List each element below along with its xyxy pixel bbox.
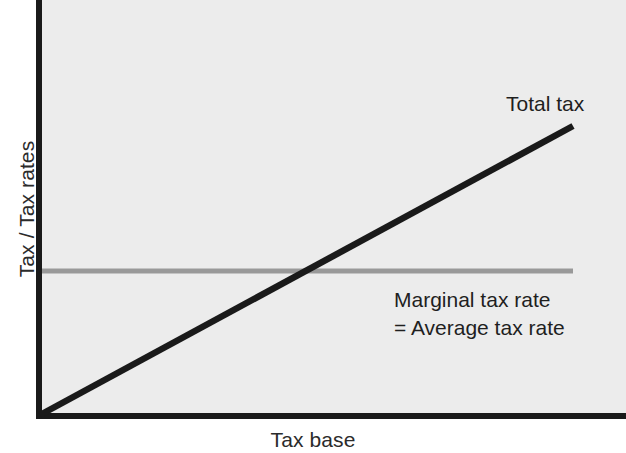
marginal-rate-label-line2: = Average tax rate xyxy=(394,314,565,342)
y-axis-label: Tax / Tax rates xyxy=(15,124,39,294)
x-axis-label: Tax base xyxy=(0,428,626,452)
tax-proportional-chart: Tax / Tax rates Tax base Total tax Margi… xyxy=(0,0,626,453)
total-tax-annotation: Total tax xyxy=(506,92,584,116)
marginal-rate-label-line1: Marginal tax rate xyxy=(394,286,565,314)
series-layer xyxy=(0,0,626,453)
marginal-average-rate-annotation: Marginal tax rate = Average tax rate xyxy=(394,286,565,342)
